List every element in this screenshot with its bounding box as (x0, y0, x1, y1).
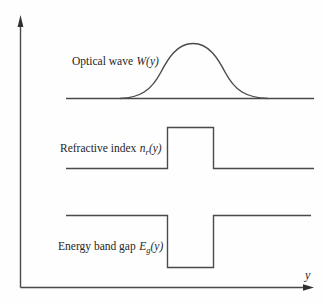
refractive-index-curve: Refractive indexnr(y) (60, 128, 314, 169)
waveguide-figure: y Optical waveW(y) Refractive indexnr(y)… (0, 0, 324, 304)
right-arrow-icon (303, 284, 314, 290)
energy-band-gap-curve: Energy band gapEg(y) (58, 216, 311, 268)
energy-band-gap-argument: (y) (151, 240, 164, 253)
refractive-index-label-text: Refractive index (60, 142, 137, 154)
optical-wave-label: Optical waveW(y) (72, 55, 159, 68)
energy-band-gap-symbol: E (138, 240, 146, 252)
energy-band-gap-label: Energy band gapEg(y) (58, 240, 163, 255)
optical-wave-label-text: Optical wave (72, 55, 133, 68)
refractive-index-argument: (y) (149, 142, 162, 155)
energy-band-gap-label-text: Energy band gap (58, 240, 136, 253)
optical-wave-curve: Optical waveW(y) (66, 44, 314, 99)
figure-canvas: y Optical waveW(y) Refractive indexnr(y)… (0, 0, 324, 304)
up-arrow-icon (18, 15, 24, 27)
optical-wave-argument: (y) (146, 55, 159, 68)
y-axis-label: y (304, 268, 311, 282)
optical-wave-gaussian (120, 44, 268, 99)
refractive-index-label: Refractive indexnr(y) (60, 142, 162, 157)
